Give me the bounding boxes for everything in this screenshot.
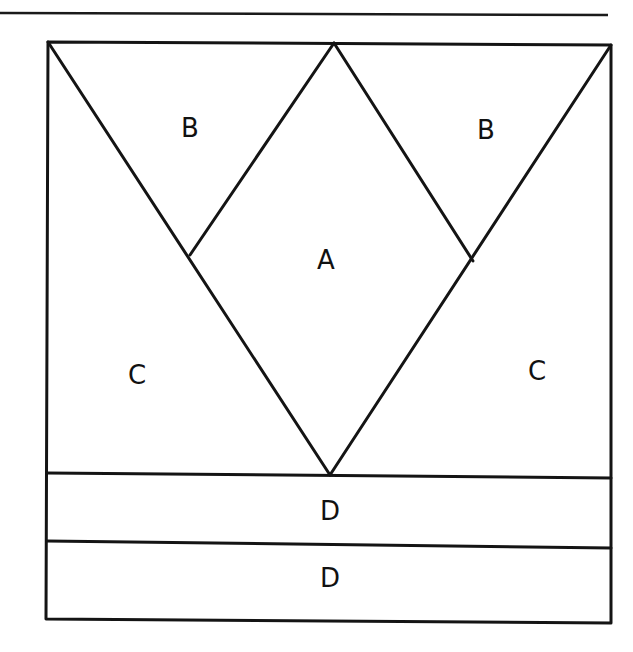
right-diagonal: [330, 45, 611, 475]
piece-label-b-right: B: [477, 115, 495, 145]
piece-label-d-top: D: [320, 496, 340, 526]
strip-divider-middle: [47, 541, 611, 548]
quilt-block-diagram: B B A C C D D: [0, 0, 633, 652]
piece-label-a: A: [317, 245, 335, 275]
piece-label-c-left: C: [128, 360, 146, 390]
piece-label-d-bottom: D: [320, 563, 340, 593]
diamond-upper-left-edge: [190, 43, 334, 255]
top-rule: [0, 13, 608, 15]
block-outline: [46, 42, 611, 623]
piece-label-b-left: B: [181, 113, 199, 143]
left-diagonal: [48, 42, 330, 475]
piece-label-c-right: C: [528, 356, 546, 386]
diamond-upper-right-edge: [334, 43, 473, 261]
